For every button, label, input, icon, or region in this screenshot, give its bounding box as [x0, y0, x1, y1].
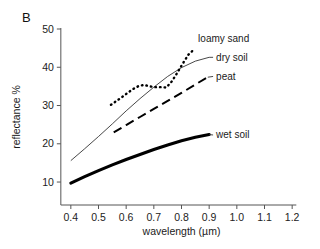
y-tick-label-40: 40 — [42, 61, 54, 73]
series-label-loamy-sand: loamy sand — [198, 33, 249, 44]
x-tick-label-0.4: 0.4 — [64, 211, 79, 223]
x-tick-label-0.6: 0.6 — [119, 211, 134, 223]
y-axis-title: reflectance % — [10, 85, 22, 149]
series-label-wet-soil: wet soil — [215, 129, 249, 140]
x-tick-label-0.9: 0.9 — [202, 211, 217, 223]
x-tick-label-0.5: 0.5 — [91, 211, 106, 223]
x-tick-label-1.0: 1.0 — [230, 211, 245, 223]
series-curve-dry-soil — [71, 57, 209, 160]
y-tick-label-50: 50 — [42, 23, 54, 35]
series-curve-peat — [114, 77, 208, 132]
y-tick-label-30: 30 — [42, 99, 54, 111]
x-axis-title: wavelength (µm) — [142, 225, 221, 237]
chart-canvas: 10203040500.40.50.60.70.80.91.01.11.2wav… — [0, 0, 320, 249]
soil-reflectance-chart: 10203040500.40.50.60.70.80.91.01.11.2wav… — [0, 0, 320, 249]
series-label-dry-soil: dry soil — [216, 52, 248, 63]
series-label-peat: peat — [216, 71, 236, 82]
series-curve-loamy-sand — [111, 51, 193, 105]
x-tick-label-1.1: 1.1 — [257, 211, 272, 223]
series-curve-wet-soil — [71, 135, 209, 184]
x-tick-label-0.8: 0.8 — [174, 211, 189, 223]
x-tick-label-1.2: 1.2 — [285, 211, 300, 223]
panel-label: B — [22, 10, 31, 25]
x-tick-label-0.7: 0.7 — [147, 211, 162, 223]
y-tick-label-10: 10 — [42, 176, 54, 188]
y-tick-label-20: 20 — [42, 137, 54, 149]
series-leader-peat — [208, 76, 213, 77]
